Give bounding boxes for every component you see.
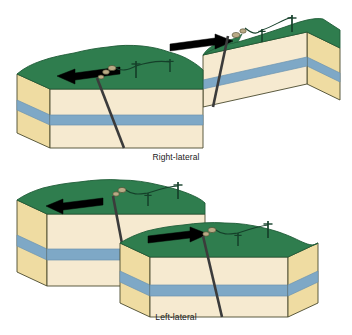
- strike-slip-fault-figure: [0, 0, 352, 335]
- bl-near-front-marker-bed: [150, 285, 288, 296]
- caption-left-lateral: Left-lateral: [0, 312, 352, 322]
- caption-right-lateral: Right-lateral: [0, 152, 352, 162]
- near-right-block: [120, 221, 318, 317]
- near-block-front-marker-bed: [50, 115, 203, 125]
